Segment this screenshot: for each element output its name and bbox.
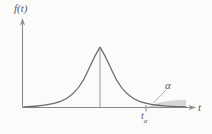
alpha-leader-line: [153, 90, 166, 104]
density-curve: [24, 47, 186, 107]
critical-value-subscript: α: [144, 117, 148, 125]
x-axis-label: t: [198, 102, 201, 113]
y-axis-label: f(t): [14, 3, 27, 14]
tdistribution-figure: f(t) t α tα: [0, 0, 212, 134]
critical-value-label: tα: [141, 111, 147, 124]
figure-canvas: [0, 0, 212, 134]
alpha-area-label: α: [165, 80, 171, 91]
